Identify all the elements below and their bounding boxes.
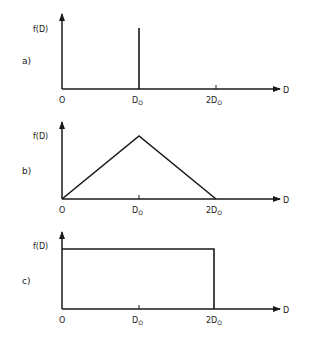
panel-b: b) f(D) D O DO 2DO [22, 122, 289, 216]
panel-a-tick-d0: DO [132, 96, 143, 106]
panel-c-tick-2d0-label: 2DO [206, 316, 222, 326]
panel-c-label: c) [22, 276, 30, 286]
panel-a-tick-2d0-label: 2DO [206, 96, 222, 106]
panel-c-tick-d0-label: DO [132, 316, 143, 326]
panel-b-ylabel: f(D) [33, 132, 48, 141]
panel-c-tick-origin: O [59, 316, 65, 325]
panel-b-triangle [62, 136, 216, 199]
panel-a-xlabel: D [283, 86, 289, 95]
distribution-diagram: a) f(D) D O DO 2DO b) f(D) D O DO 2DO c)… [0, 0, 310, 343]
panel-b-xlabel: D [283, 196, 289, 205]
panel-c-ylabel: f(D) [33, 242, 48, 251]
panel-c-xlabel: D [283, 306, 289, 315]
panel-c-rectangle [62, 249, 214, 309]
panel-b-tick-2d0-label: 2DO [206, 206, 222, 216]
panel-a-ylabel: f(D) [33, 25, 48, 34]
panel-b-tick-origin: O [59, 206, 65, 215]
panel-a-tick-origin: O [59, 96, 65, 105]
panel-a-label: a) [22, 56, 31, 66]
panel-a: a) f(D) D O DO 2DO [22, 14, 289, 106]
panel-b-tick-d0-label: DO [132, 206, 143, 216]
panel-b-label: b) [22, 166, 31, 176]
panel-c: c) f(D) D O DO 2DO [22, 232, 289, 326]
